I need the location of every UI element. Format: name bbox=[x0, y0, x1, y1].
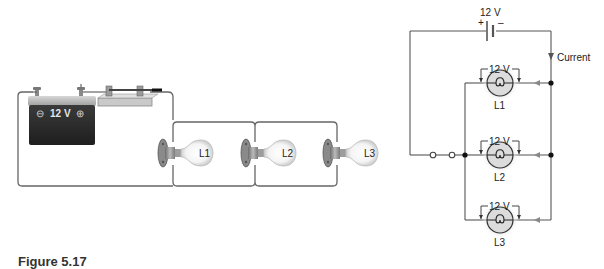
lamp-l1-voltage: 12 V bbox=[489, 64, 510, 75]
switch-terminal-left[interactable] bbox=[430, 152, 436, 158]
pictorial-circuit: ⊖ 12 V ⊕ L1 bbox=[18, 80, 378, 186]
battery-negative-icon: ⊖ bbox=[36, 108, 44, 119]
source-minus-label: – bbox=[498, 17, 504, 28]
lamp-l3-voltage: 12 V bbox=[489, 201, 510, 212]
schematic-circuit bbox=[410, 21, 551, 220]
junction-dot bbox=[462, 152, 467, 157]
lamp-l1-label: L1 bbox=[199, 148, 211, 159]
battery-voltage-label: 12 V bbox=[50, 108, 71, 119]
junction-dot bbox=[548, 80, 553, 85]
knife-switch[interactable] bbox=[98, 86, 162, 106]
junction-dot bbox=[548, 152, 553, 157]
schematic-lamp-l3: 12 V L3 bbox=[479, 201, 521, 248]
schematic-lamp-l1: 12 V L1 bbox=[479, 64, 521, 111]
current-arrow-icon bbox=[548, 53, 554, 60]
schematic-lamp-l2-label: L2 bbox=[494, 172, 506, 183]
schematic-lamp-l3-label: L3 bbox=[494, 237, 506, 248]
battery-positive-icon: ⊕ bbox=[76, 108, 84, 119]
schematic-lamp-l2: 12 V L2 bbox=[479, 136, 521, 183]
lamp-l2-voltage: 12 V bbox=[489, 136, 510, 147]
figure-caption: Figure 5.17 bbox=[18, 254, 87, 269]
lamp-l2-label: L2 bbox=[282, 148, 294, 159]
current-label: Current bbox=[557, 52, 591, 63]
lamp-l3: L3 bbox=[323, 139, 378, 167]
schematic-lamp-l1-label: L1 bbox=[494, 100, 506, 111]
lamp-l2: L2 bbox=[241, 139, 296, 167]
lamp-l1: L1 bbox=[158, 139, 213, 167]
switch-terminal-right[interactable] bbox=[449, 152, 455, 158]
source-plus-label: + bbox=[478, 17, 484, 28]
lamp-l3-label: L3 bbox=[364, 148, 376, 159]
battery: ⊖ 12 V ⊕ bbox=[28, 87, 96, 145]
